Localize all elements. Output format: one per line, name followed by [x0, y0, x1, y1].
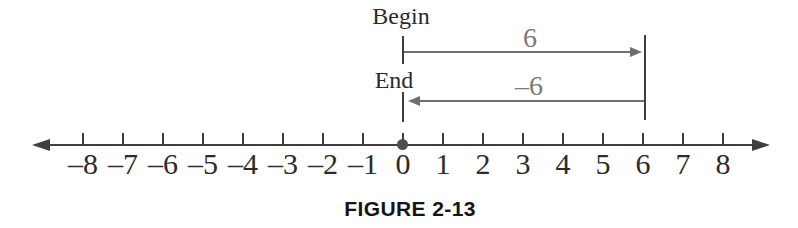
- tick-mark: [362, 133, 364, 145]
- tick-mark: [642, 133, 644, 145]
- backward-arrowhead-icon: [408, 96, 420, 106]
- backward-arrow-shaft: [412, 100, 644, 102]
- forward-arrowhead-icon: [630, 47, 642, 57]
- tick-mark: [122, 133, 124, 145]
- tick-mark: [602, 133, 604, 145]
- tick-mark: [562, 133, 564, 145]
- origin-dot: [397, 139, 408, 150]
- figure-number-line: Begin 6 End –6 –8–7–6–5–4–3–2–1012345678…: [0, 0, 798, 228]
- tick-mark: [522, 133, 524, 145]
- tick-mark: [442, 133, 444, 145]
- figure-caption: FIGURE 2-13: [260, 197, 560, 220]
- tick-mark: [322, 133, 324, 145]
- begin-tick-mark: [402, 36, 404, 64]
- backward-displacement-label: –6: [499, 72, 559, 100]
- tick-mark: [722, 133, 724, 145]
- tick-mark: [682, 133, 684, 145]
- tick-mark: [242, 133, 244, 145]
- begin-label: Begin: [351, 4, 451, 28]
- axis-left-arrowhead-icon: [32, 139, 50, 151]
- end-tick-mark: [402, 92, 404, 122]
- end-bar-at-six: [644, 35, 646, 120]
- forward-displacement-label: 6: [500, 24, 560, 52]
- tick-mark: [202, 133, 204, 145]
- tick-mark: [482, 133, 484, 145]
- forward-arrow-shaft: [404, 51, 632, 53]
- tick-mark: [162, 133, 164, 145]
- tick-mark: [82, 133, 84, 145]
- end-label: End: [344, 68, 444, 92]
- tick-mark: [282, 133, 284, 145]
- axis-right-arrowhead-icon: [752, 139, 770, 151]
- tick-label: 8: [693, 149, 753, 179]
